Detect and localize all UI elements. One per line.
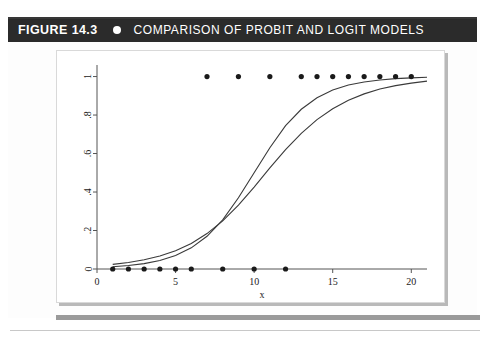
data-point [189,266,194,271]
x-tick-label: 15 [328,276,338,287]
observed-data-points [110,74,414,272]
data-point [299,74,304,79]
data-point [220,266,225,271]
y-tick-label: 1 [83,74,94,79]
data-point [267,74,272,79]
y-tick-label: .8 [83,111,94,119]
data-point [377,74,382,79]
figure-label: FIGURE [18,23,68,37]
x-axis-label: x [260,289,265,300]
data-point [330,74,335,79]
figure-body: 0.2.4.6.81 05101520 x [8,42,477,318]
fitted-curves [113,77,427,266]
x-axis-tick-labels: 05101520 [95,276,417,287]
y-axis-tick-labels: 0.2.4.6.81 [83,74,94,271]
data-point [409,74,414,79]
y-tick-label: .6 [83,150,94,158]
data-point [283,266,288,271]
plot-area: 0.2.4.6.81 05101520 x [57,51,444,302]
data-point [204,74,209,79]
y-tick-label: 0 [83,267,94,272]
data-point [126,266,131,271]
x-tick-label: 5 [173,276,178,287]
data-point [236,74,241,79]
bottom-rule-thick [56,315,480,320]
chart-axes [97,65,427,269]
y-axis-ticks [93,77,97,269]
data-point [346,74,351,79]
data-point [362,74,367,79]
figure-header-bar: FIGURE 14.3 COMPARISON OF PROBIT AND LOG… [8,17,477,42]
circle-bullet-icon [113,26,121,34]
bottom-rule-thin [10,330,480,331]
data-point [110,266,115,271]
data-point [393,74,398,79]
x-tick-label: 10 [249,276,259,287]
figure-title: COMPARISON OF PROBIT AND LOGIT MODELS [134,23,424,37]
probit-curve [113,77,427,266]
x-tick-label: 0 [95,276,100,287]
data-point [157,266,162,271]
data-point [173,266,178,271]
logit-curve [113,81,427,264]
chart-card: 0.2.4.6.81 05101520 x [56,50,445,303]
probit-logit-chart: 0.2.4.6.81 05101520 x [57,51,444,302]
data-point [314,74,319,79]
figure-number: 14.3 [72,23,98,37]
x-tick-label: 20 [406,276,416,287]
y-tick-label: .2 [83,227,94,235]
data-point [142,266,147,271]
data-point [252,266,257,271]
y-tick-label: .4 [83,188,94,196]
